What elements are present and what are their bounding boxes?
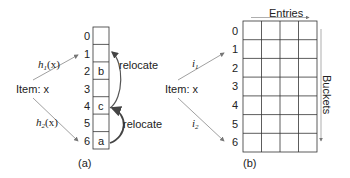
item-label-a: Item: x — [16, 83, 50, 95]
i1-arrow — [178, 53, 224, 80]
i1-label: i1 — [192, 57, 199, 71]
relocate-arc-2 — [110, 108, 124, 143]
bucket-grid — [243, 21, 317, 152]
bucket-index-2: 2 — [232, 62, 238, 74]
h2-label: h2(x) — [36, 116, 58, 130]
index-4: 4 — [84, 100, 90, 112]
bucket-index-3: 3 — [232, 80, 238, 92]
cell-b: b — [98, 65, 104, 77]
bucket-index-6: 6 — [232, 136, 238, 148]
item-label-b: Item: x — [165, 83, 199, 95]
caption-a: (a) — [78, 157, 91, 169]
index-5: 5 — [84, 117, 90, 129]
h1-label: h1(x) — [38, 58, 60, 72]
i2-arrow — [178, 98, 224, 141]
bucket-index-0: 0 — [232, 25, 238, 37]
relocate-label-2: relocate — [123, 118, 162, 130]
i2-label: i2 — [192, 117, 199, 131]
array-a — [93, 27, 109, 149]
index-0: 0 — [84, 30, 90, 42]
cuckoo-hashing-diagram: 0 1 2 3 4 5 6 b c a Item: x h1(x) h2(x) … — [0, 0, 350, 178]
buckets-label: Buckets — [321, 75, 333, 115]
index-3: 3 — [84, 83, 90, 95]
cell-a: a — [98, 135, 105, 147]
panel-a: 0 1 2 3 4 5 6 b c a Item: x h1(x) h2(x) … — [16, 27, 162, 169]
cell-c: c — [98, 100, 104, 112]
relocate-label-1: relocate — [119, 59, 158, 71]
caption-b: (b) — [243, 157, 256, 169]
bucket-index-4: 4 — [232, 99, 238, 111]
panel-b: 0 1 2 3 4 5 6 Entries Buckets Item: x i1… — [165, 7, 333, 169]
index-2: 2 — [84, 65, 90, 77]
bucket-index-1: 1 — [232, 43, 238, 55]
index-6: 6 — [84, 135, 90, 147]
index-1: 1 — [84, 48, 90, 60]
bucket-index-5: 5 — [232, 118, 238, 130]
